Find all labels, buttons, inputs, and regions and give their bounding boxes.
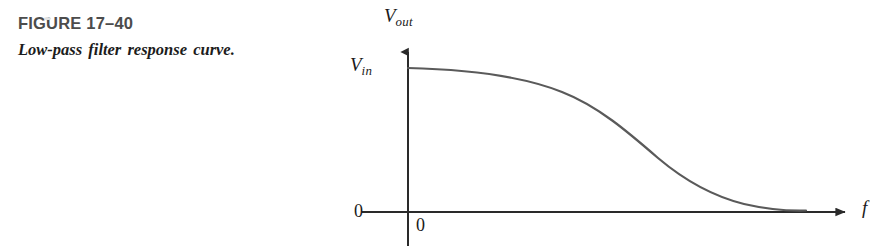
y-axis-label-vout: Vout xyxy=(384,6,413,25)
x-axis-label-frequency: f xyxy=(862,198,867,217)
y-axis-tick-vin-subscript: in xyxy=(362,63,372,78)
y-axis-tick-zero: 0 xyxy=(354,202,363,220)
plot-area: Vout Vin f 0 0 xyxy=(340,0,893,246)
y-axis-tick-vin: Vin xyxy=(350,55,372,74)
response-curve-plot xyxy=(340,0,893,246)
y-axis-label-vout-subscript: out xyxy=(396,14,413,29)
scan-artifact xyxy=(44,17,51,20)
figure-container: FIGURE 17–40 Low-pass filter response cu… xyxy=(0,0,893,246)
low-pass-response-curve xyxy=(408,68,806,211)
y-axis-label-vout-main: V xyxy=(384,5,396,26)
figure-caption-text: Low-pass filter response curve. xyxy=(18,40,338,60)
figure-number-label: FIGURE 17–40 xyxy=(18,14,338,33)
y-axis-tick-vin-main: V xyxy=(350,54,362,75)
figure-caption-block: FIGURE 17–40 Low-pass filter response cu… xyxy=(18,14,338,60)
x-axis-tick-zero: 0 xyxy=(416,216,425,234)
